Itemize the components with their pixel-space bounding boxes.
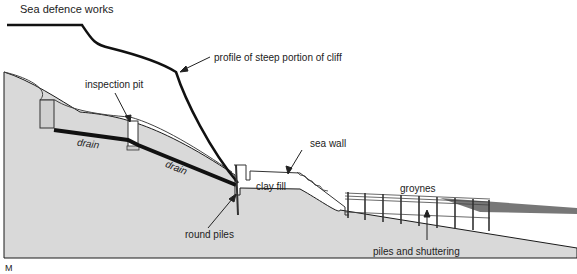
label-round-piles: round piles	[185, 230, 234, 240]
label-groynes: groynes	[400, 184, 436, 194]
label-cliff-profile: profile of steep portion of cliff	[214, 53, 342, 63]
figure-mark: M	[5, 264, 13, 273]
label-inspection-pit: inspection pit	[85, 80, 143, 90]
diagram-title: Sea defence works	[20, 4, 114, 15]
ground-cross-section	[4, 72, 577, 258]
label-piles-and-shuttering: piles and shuttering	[373, 247, 460, 257]
label-clay-fill: clay fill	[256, 182, 286, 192]
label-sea-wall: sea wall	[310, 139, 346, 149]
drain-outlet-block	[40, 100, 54, 128]
